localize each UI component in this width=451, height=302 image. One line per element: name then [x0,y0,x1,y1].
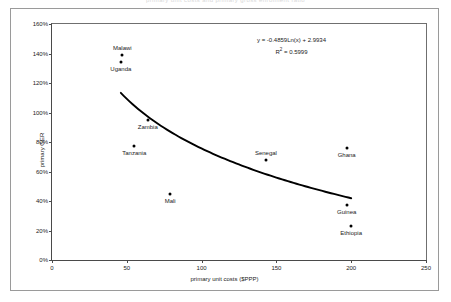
y-tick-mark [49,24,52,25]
data-point-label: Senegal [255,150,277,156]
y-tick-label: 0% [39,257,48,263]
y-tick-mark [49,113,52,114]
x-tick-label: 100 [197,265,207,271]
y-tick-label: 100% [33,110,48,116]
y-tick-label: 160% [33,21,48,27]
y-tick-label: 20% [36,228,48,234]
data-point[interactable] [146,118,149,121]
x-tick-mark [276,260,277,263]
x-tick-mark [351,260,352,263]
data-point-label: Ghana [338,152,356,158]
x-tick-mark [52,260,53,263]
data-point[interactable] [121,53,124,56]
data-point-label: Mali [165,198,176,204]
y-tick-mark [49,142,52,143]
r-squared: R2 = 0.5999 [232,45,352,57]
y-tick-label: 40% [36,198,48,204]
trendline-equation: y = -0.4859Ln(x) + 2.9934 [232,36,352,45]
y-tick-mark [49,54,52,55]
y-tick-mark [49,201,52,202]
data-point[interactable] [119,61,122,64]
y-tick-label: 120% [33,80,48,86]
trendline [52,24,426,260]
data-point[interactable] [345,204,348,207]
chart-page: primary unit costs and primary gross enr… [0,0,451,302]
y-tick-mark [49,231,52,232]
plot-area: y = -0.4859Ln(x) + 2.9934 R2 = 0.5999 0%… [51,23,427,261]
x-tick-mark [426,260,427,263]
data-point-label: Guinea [337,209,356,215]
chart-frame: primary GER primary unit costs ($PPP) y … [10,8,439,291]
data-point-label: Uganda [110,66,131,72]
y-tick-label: 140% [33,51,48,57]
data-point-label: Ethiopia [340,230,362,236]
data-point[interactable] [169,192,172,195]
x-tick-mark [127,260,128,263]
data-point[interactable] [345,146,348,149]
x-tick-label: 250 [421,265,431,271]
x-tick-mark [202,260,203,263]
y-axis-title: primary GER [39,132,45,167]
y-tick-mark [49,83,52,84]
data-point-label: Malawi [113,45,132,51]
data-point[interactable] [133,145,136,148]
trendline-equation-box: y = -0.4859Ln(x) + 2.9934 R2 = 0.5999 [232,36,352,57]
y-tick-label: 80% [36,139,48,145]
data-point[interactable] [264,158,267,161]
x-tick-label: 200 [346,265,356,271]
clipped-chart-title: primary unit costs and primary gross enr… [0,0,451,7]
y-tick-mark [49,172,52,173]
y-tick-label: 60% [36,169,48,175]
x-axis-title: primary unit costs ($PPP) [11,276,438,282]
data-point-label: Tanzania [122,150,146,156]
data-point-label: Zambia [138,124,158,130]
x-tick-label: 150 [271,265,281,271]
data-point[interactable] [350,225,353,228]
x-tick-label: 50 [123,265,130,271]
x-tick-label: 0 [50,265,53,271]
